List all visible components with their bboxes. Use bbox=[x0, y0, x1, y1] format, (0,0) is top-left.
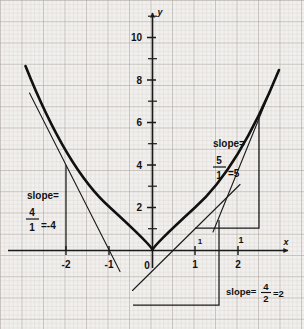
x-axis-label: x bbox=[282, 237, 289, 247]
y-tick-label-8: 8 bbox=[136, 75, 142, 86]
slope-label-left-prefix: slope= bbox=[27, 190, 59, 201]
slope-label-secant-prefix: slope= bbox=[226, 286, 257, 297]
run-label-tangent-marker: 1 bbox=[198, 237, 203, 246]
y-tick-label-6: 6 bbox=[136, 117, 142, 128]
x-tick-label-minus-2: -2 bbox=[62, 259, 71, 270]
origin-label: 0 bbox=[144, 260, 150, 271]
slope-label-secant-numerator: 4 bbox=[263, 281, 269, 292]
slope-label-secant-value: =2 bbox=[273, 288, 284, 299]
y-tick-label-2: 2 bbox=[136, 202, 142, 213]
slope-label-right-value: =5 bbox=[228, 168, 240, 179]
run-label-right-triangle: 1 bbox=[238, 235, 243, 245]
y-axis-label: y bbox=[156, 7, 163, 17]
y-tick-label-4: 4 bbox=[136, 160, 142, 171]
slope-label-left-value: =-4 bbox=[41, 220, 56, 231]
slope-label-right-denominator: 1 bbox=[216, 170, 222, 181]
x-tick-label-2: 2 bbox=[235, 259, 241, 270]
slope-label-right-numerator: 5 bbox=[216, 155, 222, 166]
x-tick-label-minus-1: -1 bbox=[105, 259, 114, 270]
figure-canvas: 10 8 6 4 2 -2 -1 1 2 0 x y bbox=[0, 0, 304, 329]
slope-label-left-numerator: 4 bbox=[29, 207, 35, 218]
slope-label-secant-denominator: 2 bbox=[263, 293, 268, 304]
x-tick-label-1: 1 bbox=[192, 259, 198, 270]
slope-label-left-denominator: 1 bbox=[29, 222, 35, 233]
slope-label-right-prefix: slope= bbox=[213, 138, 245, 149]
y-tick-label-10: 10 bbox=[131, 32, 143, 43]
parabola-slope-diagram: 10 8 6 4 2 -2 -1 1 2 0 x y bbox=[0, 0, 304, 329]
